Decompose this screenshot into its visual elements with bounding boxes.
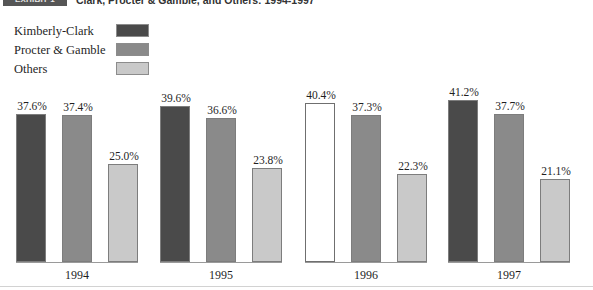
bar: 39.6% — [160, 106, 190, 262]
bar-group: 40.4%37.3%22.3%1996 — [305, 0, 427, 290]
bar: 37.7% — [494, 114, 524, 262]
bar-group: 39.6%36.6%23.8%1995 — [160, 0, 282, 290]
bar: 23.8% — [252, 168, 282, 262]
bar: 25.0% — [108, 164, 138, 262]
footer-divider — [0, 286, 593, 287]
bar-value-label: 37.3% — [339, 101, 395, 114]
x-axis-tick-label: 1995 — [160, 268, 282, 282]
bar-group: 37.6%37.4%25.0%1994 — [16, 0, 138, 290]
bar: 22.3% — [397, 174, 427, 262]
bar-value-label: 23.8% — [240, 154, 296, 167]
bar: 37.6% — [16, 114, 46, 262]
group-baseline — [305, 262, 427, 263]
x-axis-tick-label: 1996 — [305, 268, 427, 282]
bar: 21.1% — [540, 179, 570, 262]
bar: 37.3% — [351, 115, 381, 262]
bar-value-label: 41.2% — [436, 86, 492, 99]
bar-value-label: 22.3% — [385, 160, 441, 173]
bar: 40.4% — [305, 103, 335, 262]
bar-value-label: 36.6% — [194, 104, 250, 117]
bar-value-label: 37.4% — [50, 101, 106, 114]
group-baseline — [16, 262, 138, 263]
bar: 37.4% — [62, 115, 92, 262]
bar: 41.2% — [448, 100, 478, 262]
group-baseline — [448, 262, 570, 263]
x-axis-tick-label: 1997 — [448, 268, 570, 282]
bar-value-label: 21.1% — [528, 165, 584, 178]
x-axis-tick-label: 1994 — [16, 268, 138, 282]
bar-value-label: 37.7% — [482, 100, 538, 113]
group-baseline — [160, 262, 282, 263]
bar-chart-plot-area: 37.6%37.4%25.0%199439.6%36.6%23.8%199540… — [0, 0, 593, 290]
bar-group: 41.2%37.7%21.1%1997 — [448, 0, 570, 290]
bar-value-label: 25.0% — [96, 150, 152, 163]
bar: 36.6% — [206, 118, 236, 262]
